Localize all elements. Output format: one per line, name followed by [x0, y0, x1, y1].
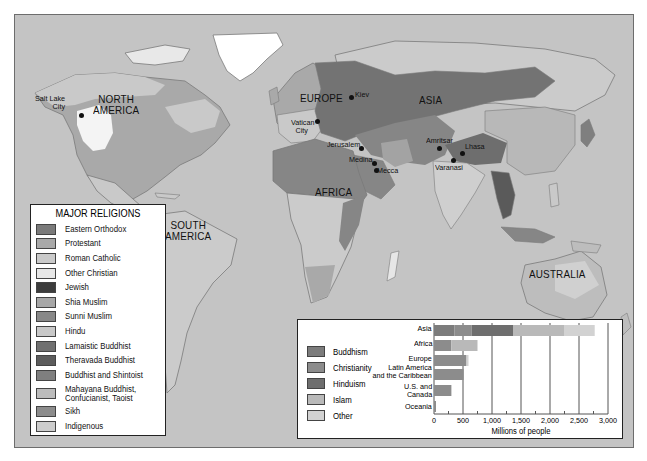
x-tick-2000: 2,000 — [541, 416, 559, 425]
x-tick-1000: 1,000 — [483, 416, 501, 425]
x-tick-1500: 1,500 — [512, 416, 530, 425]
legend-item-theravada-buddhist: Theravada Buddhist — [31, 353, 165, 368]
city-label-mecca: Mecca — [377, 167, 398, 175]
city-label-medina: Medina — [349, 156, 373, 164]
swatch — [36, 406, 56, 417]
region-line: AMERICA — [165, 231, 211, 242]
legend-label: Eastern Orthodox — [65, 225, 126, 234]
legend-label: Other Christian — [65, 269, 118, 278]
swatch — [36, 341, 56, 352]
swatch — [36, 355, 56, 366]
city-label-jerusalem: Jerusalem — [327, 141, 360, 149]
swatch — [36, 421, 56, 432]
region-label-asia: ASIA — [419, 95, 442, 106]
swatch — [36, 282, 56, 293]
legend-label: Protestant — [65, 239, 101, 248]
city-marker-amritsar — [437, 146, 442, 151]
region-label-africa: AFRICA — [315, 187, 352, 198]
city-marker-mecca — [374, 168, 379, 173]
city-label-amritsar: Amritsar — [426, 137, 453, 145]
legend-item-indigenous: Indigenous — [31, 419, 165, 434]
swatch — [36, 238, 56, 249]
x-tick-0: 0 — [432, 416, 436, 425]
x-tick-2500: 2,500 — [570, 416, 588, 425]
city-marker-kiev — [349, 95, 354, 100]
legend-item-mahayana: Mahayana Buddhist, Confucianist, Taoist — [31, 383, 165, 405]
x-tick-3000: 3,000 — [599, 416, 617, 425]
major-religions-legend: MAJOR RELIGIONS Eastern Orthodox Protest… — [30, 204, 166, 436]
legend-label: Hindu — [65, 327, 85, 336]
legend-label: Shia Muslim — [65, 298, 108, 307]
swatch — [36, 224, 56, 235]
swatch — [36, 268, 56, 279]
city-label-salt-lake-city: Salt Lake City — [35, 95, 65, 111]
swatch — [36, 297, 56, 308]
city-marker-vatican-city — [315, 119, 320, 124]
legend-item-lamaistic-buddhist: Lamaistic Buddhist — [31, 339, 165, 354]
legend-item-jewish: Jewish — [31, 280, 165, 295]
legend-title: MAJOR RELIGIONS — [36, 208, 159, 219]
legend-label: Mahayana Buddhist, Confucianist, Taoist — [65, 385, 136, 403]
swatch — [36, 388, 56, 399]
region-label-australia: AUSTRALIA — [529, 269, 586, 280]
legend-item-eastern-orthodox: Eastern Orthodox — [31, 222, 165, 237]
legend-item-other-christian: Other Christian — [31, 266, 165, 281]
x-tick-500: 500 — [457, 416, 469, 425]
swatch — [36, 311, 56, 322]
legend-item-buddhist-shintoist: Buddhist and Shintoist — [31, 368, 165, 383]
legend-label-line: Confucianist, Taoist — [65, 394, 136, 403]
city-marker-varanasi — [451, 158, 456, 163]
city-marker-salt-lake-city — [79, 113, 84, 118]
legend-item-protestant: Protestant — [31, 237, 165, 252]
legend-item-roman-catholic: Roman Catholic — [31, 251, 165, 266]
swatch — [36, 370, 56, 381]
region-line: AMERICA — [93, 105, 139, 116]
legend-label: Theravada Buddhist — [65, 356, 135, 365]
region-label-south-america: SOUTH AMERICA — [165, 220, 211, 242]
legend-item-sunni-muslim: Sunni Muslim — [31, 310, 165, 325]
city-line: City — [35, 103, 65, 111]
city-label-lhasa: Lhasa — [465, 143, 485, 151]
city-line: City — [291, 127, 314, 135]
region-label-north-america: NORTH AMERICA — [93, 94, 139, 116]
x-axis-title: Millions of people — [491, 426, 550, 436]
greenland — [213, 33, 283, 81]
legend-label: Sikh — [65, 407, 80, 416]
swatch — [36, 253, 56, 264]
region-label-europe: EUROPE — [300, 93, 343, 104]
legend-label: Jewish — [65, 283, 89, 292]
city-label-vatican-city: Vatican City — [291, 119, 314, 135]
city-marker-jerusalem — [359, 146, 364, 151]
legend-item-shia-muslim: Shia Muslim — [31, 295, 165, 310]
legend-item-hindu: Hindu — [31, 324, 165, 339]
legend-label: Indigenous — [65, 422, 103, 431]
city-label-kiev: Kiev — [355, 91, 369, 99]
swatch — [36, 326, 56, 337]
legend-label: Sunni Muslim — [65, 312, 112, 321]
religion-population-chart: Buddhism Christianity Hinduism Islam Oth… — [297, 319, 623, 439]
city-marker-lhasa — [460, 151, 465, 156]
city-label-varanasi: Varanasi — [435, 164, 463, 172]
legend-label: Buddhist and Shintoist — [65, 371, 143, 380]
legend-label: Roman Catholic — [65, 254, 121, 263]
legend-item-sikh: Sikh — [31, 405, 165, 420]
legend-label: Lamaistic Buddhist — [65, 342, 131, 351]
